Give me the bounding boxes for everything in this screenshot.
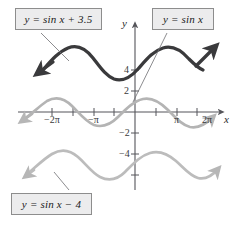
sine-translation-figure: y x −2π −π π 2π 4 2 −2 −4 y = sin x + 3.…	[0, 0, 236, 228]
x-tick-label-neg-pi: −π	[88, 114, 99, 125]
x-tick-label-pi: π	[174, 114, 179, 125]
curve-sin-plus-35-left-arrow	[38, 62, 53, 73]
callout-sin-minus-4: y = sin x − 4	[11, 193, 92, 215]
leader-line-bottom-left	[54, 172, 69, 190]
callout-sin: y = sin x	[152, 8, 214, 30]
x-tick-label-neg-2pi: −2π	[44, 114, 60, 125]
callout-top-right-text: y = sin x	[163, 13, 203, 25]
callout-top-left-text: y = sin x + 3.5	[25, 13, 93, 25]
curve-sin-plus-35	[42, 47, 203, 80]
y-tick-label-2: 2	[124, 85, 129, 96]
y-tick-label-4: 4	[124, 64, 129, 75]
x-axis-label: x	[224, 113, 229, 125]
curve-sin-plus-35-right-arrow	[196, 47, 215, 66]
y-tick-label-neg-2: −2	[119, 127, 130, 138]
callout-bottom-left-text: y = sin x − 4	[22, 198, 81, 210]
callout-sin-plus-35: y = sin x + 3.5	[15, 8, 102, 30]
curve-sin-left-arrow	[22, 114, 32, 121]
y-axis-label: y	[122, 17, 127, 29]
x-tick-label-2pi: 2π	[202, 114, 212, 125]
y-tick-label-neg-4: −4	[119, 148, 130, 159]
